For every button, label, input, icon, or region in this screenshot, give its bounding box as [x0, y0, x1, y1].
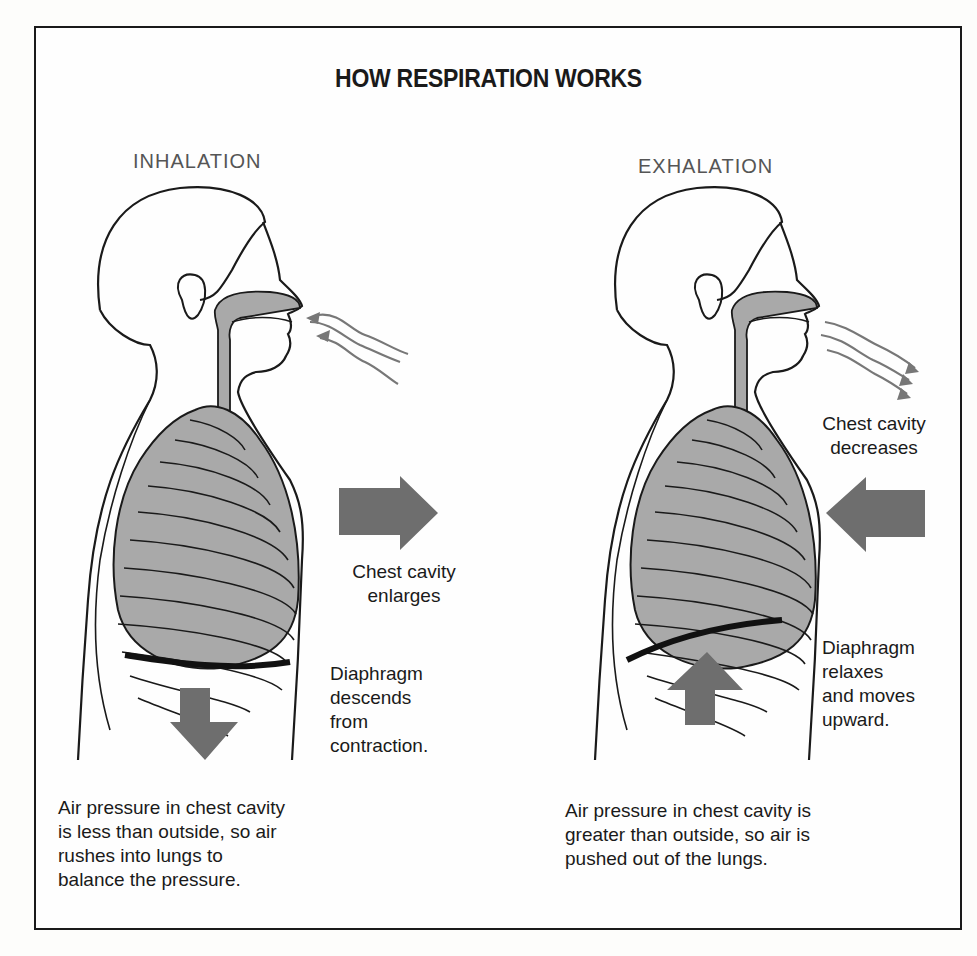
diaphragm-label-line: and moves: [822, 684, 915, 708]
exhalation-diaphragm-label: Diaphragm relaxes and moves upward.: [822, 636, 915, 732]
chest-label-line: Chest cavity: [330, 560, 478, 584]
diaphragm-label-line: Diaphragm: [822, 636, 915, 660]
caption-line: rushes into lungs to: [58, 844, 285, 868]
exhalation-chest-label: Chest cavity decreases: [800, 412, 948, 460]
caption-line: Air pressure in chest cavity is: [565, 799, 811, 823]
chest-label-line: decreases: [800, 436, 948, 460]
caption-line: is less than outside, so air: [58, 820, 285, 844]
diaphragm-label-line: Diaphragm: [330, 662, 428, 686]
caption-line: balance the pressure.: [58, 868, 285, 892]
chest-label-line: enlarges: [330, 584, 478, 608]
caption-line: Air pressure in chest cavity: [58, 796, 285, 820]
chest-label-line: Chest cavity: [800, 412, 948, 436]
inhalation-diaphragm-label: Diaphragm descends from contraction.: [330, 662, 428, 758]
caption-line: pushed out of the lungs.: [565, 847, 811, 871]
exhalation-caption: Air pressure in chest cavity is greater …: [565, 799, 811, 871]
diaphragm-label-line: descends: [330, 686, 428, 710]
inhalation-chest-label: Chest cavity enlarges: [330, 560, 478, 608]
diaphragm-label-line: contraction.: [330, 734, 428, 758]
inhalation-caption: Air pressure in chest cavity is less tha…: [58, 796, 285, 892]
caption-line: greater than outside, so air is: [565, 823, 811, 847]
diaphragm-label-line: relaxes: [822, 660, 915, 684]
diaphragm-label-line: upward.: [822, 708, 915, 732]
diaphragm-label-line: from: [330, 710, 428, 734]
